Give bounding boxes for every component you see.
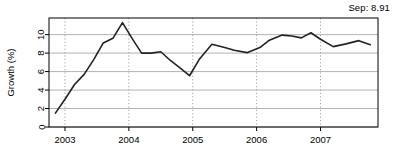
chart-plot-area: 0246810 20032004200520062007 Growth (%) [0,0,395,154]
y-tick-label: 8 [36,50,47,55]
x-tick-label: 2005 [182,134,203,145]
data-series-line [55,23,370,114]
x-tick-label: 2004 [118,134,139,145]
x-tick-label: 2003 [54,134,75,145]
y-tick-label: 0 [36,124,47,129]
x-axis-tick-labels: 20032004200520062007 [54,134,331,145]
y-axis-tick-labels: 0246810 [36,29,47,129]
horizontal-gridlines [49,35,378,127]
y-tick-label: 4 [36,87,47,92]
y-tick-label: 2 [36,106,47,111]
x-axis-ticks [65,127,321,131]
x-tick-label: 2007 [310,134,331,145]
y-axis-title: Growth (%) [5,48,16,96]
growth-line-chart: 0246810 20032004200520062007 Growth (%) [0,0,395,154]
x-tick-label: 2006 [246,134,267,145]
chart-screenshot: Sep: 8.91 0246810 20032004200520062007 G… [0,0,395,154]
y-axis-ticks [45,35,49,127]
growth-series-path [55,23,370,114]
y-tick-label: 6 [36,69,47,74]
y-tick-label: 10 [36,29,47,40]
